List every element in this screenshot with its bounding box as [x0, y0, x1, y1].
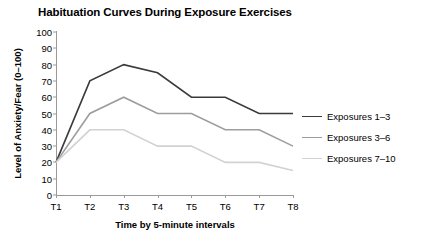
x-axis-tick-mark — [191, 195, 192, 198]
y-axis-tick-label: 30 — [30, 141, 52, 152]
legend-swatch-line-icon — [302, 116, 322, 117]
x-axis-tick-label: T2 — [84, 201, 95, 212]
habituation-curves-chart: Habituation Curves During Exposure Exerc… — [0, 0, 435, 241]
y-axis-tick-label: 70 — [30, 75, 52, 86]
legend-item-1[interactable]: Exposures 1–3 — [302, 106, 432, 127]
y-axis-tick-label: 20 — [30, 157, 52, 168]
x-axis-tick-mark — [56, 195, 57, 198]
y-axis-tick-label: 90 — [30, 43, 52, 54]
y-axis-tick-label: 0 — [30, 190, 52, 201]
legend-label: Exposures 3–6 — [327, 132, 390, 143]
y-axis-label: Level of Anxiety/Fear (0–100) — [12, 34, 23, 194]
x-axis-tick-mark — [124, 195, 125, 198]
y-axis-tick-label: 50 — [30, 108, 52, 119]
legend-swatch-line-icon — [302, 137, 322, 138]
legend-label: Exposures 1–3 — [327, 111, 390, 122]
x-axis-tick-label: T1 — [50, 201, 61, 212]
plot-area: 0102030405060708090100T1T2T3T4T5T6T7T8 — [56, 32, 293, 195]
y-axis-tick-mark — [53, 48, 56, 49]
y-axis-tick-mark — [53, 146, 56, 147]
x-axis-tick-mark — [90, 195, 91, 198]
series-line-3 — [56, 130, 293, 171]
y-axis-tick-label: 10 — [30, 173, 52, 184]
x-axis-tick-mark — [259, 195, 260, 198]
y-axis-tick-mark — [53, 80, 56, 81]
y-axis-tick-label: 40 — [30, 124, 52, 135]
chart-legend: Exposures 1–3Exposures 3–6Exposures 7–10 — [302, 106, 432, 169]
x-axis-tick-label: T8 — [287, 201, 298, 212]
y-axis-tick-mark — [53, 32, 56, 33]
y-axis-tick-mark — [53, 97, 56, 98]
x-axis-tick-label: T3 — [118, 201, 129, 212]
x-axis-tick-label: T5 — [186, 201, 197, 212]
x-axis-tick-label: T7 — [254, 201, 265, 212]
y-axis-tick-label: 80 — [30, 59, 52, 70]
y-axis-tick-mark — [53, 113, 56, 114]
series-lines — [56, 32, 293, 195]
legend-item-2[interactable]: Exposures 3–6 — [302, 127, 432, 148]
legend-label: Exposures 7–10 — [327, 153, 396, 164]
x-axis-tick-mark — [225, 195, 226, 198]
legend-item-3[interactable]: Exposures 7–10 — [302, 148, 432, 169]
x-axis-tick-label: T6 — [220, 201, 231, 212]
y-axis-tick-label: 100 — [30, 27, 52, 38]
y-axis-tick-mark — [53, 162, 56, 163]
y-axis-tick-mark — [53, 129, 56, 130]
chart-title: Habituation Curves During Exposure Exerc… — [0, 6, 330, 18]
y-axis-tick-mark — [53, 178, 56, 179]
y-axis-tick-label: 60 — [30, 92, 52, 103]
x-axis-tick-mark — [158, 195, 159, 198]
legend-swatch-line-icon — [302, 158, 322, 159]
x-axis-tick-mark — [293, 195, 294, 198]
y-axis-tick-mark — [53, 64, 56, 65]
x-axis-label: Time by 5-minute intervals — [55, 219, 295, 230]
x-axis-tick-label: T4 — [152, 201, 163, 212]
